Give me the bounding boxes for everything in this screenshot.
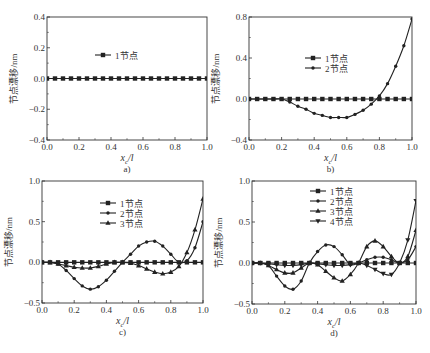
- series-line: [42, 222, 203, 290]
- legend-label: 2节点: [330, 197, 353, 207]
- square-marker: [258, 261, 262, 265]
- square-marker: [189, 76, 193, 80]
- square-marker: [255, 97, 259, 101]
- square-marker: [104, 260, 108, 264]
- y-tick-label: −0.4: [231, 135, 248, 145]
- dot-marker: [161, 244, 164, 247]
- plot-frame: [249, 17, 412, 140]
- square-marker: [385, 97, 389, 101]
- square-marker: [340, 261, 344, 265]
- triangle-down-marker: [413, 199, 418, 204]
- square-marker: [283, 261, 287, 265]
- square-marker: [56, 260, 60, 264]
- square-marker: [153, 260, 157, 264]
- dot-marker: [382, 256, 385, 259]
- legend-label: 3节点: [330, 207, 353, 217]
- square-marker: [279, 97, 283, 101]
- square-marker: [299, 261, 303, 265]
- y-axis-label: 节点漂移/nm: [8, 53, 19, 103]
- x-tick-label: 0.2: [73, 142, 84, 152]
- triangle-up-marker: [200, 196, 205, 201]
- y-tick-label: −0.2: [29, 104, 45, 114]
- x-tick-label: 0.2: [276, 142, 287, 152]
- square-marker: [394, 97, 398, 101]
- square-marker: [414, 261, 418, 265]
- square-marker: [320, 97, 324, 101]
- dot-marker: [291, 288, 294, 291]
- y-tick-label: 0.0: [34, 74, 46, 84]
- chart-panel-a: 0.00.20.40.60.81.0−0.4−0.20.00.20.4节点漂移/…: [8, 12, 213, 174]
- square-marker: [109, 76, 113, 80]
- legend-label: 1节点: [115, 51, 138, 61]
- square-marker: [307, 261, 311, 265]
- square-marker: [312, 97, 316, 101]
- triangle-up-marker: [413, 227, 418, 232]
- square-marker: [365, 261, 369, 265]
- dot-marker: [300, 279, 303, 282]
- chart-panel-c: 0.00.20.40.60.81.0−0.50.00.51.0节点漂移/nmxc…: [3, 176, 209, 337]
- square-marker: [250, 261, 254, 265]
- legend-label: 1节点: [120, 199, 143, 209]
- chart-panel-d: 0.00.20.40.60.81.0−0.50.00.51.0节点漂移/nmxc…: [213, 176, 422, 338]
- square-marker: [80, 260, 84, 264]
- legend-label: 1节点: [325, 54, 348, 64]
- square-marker: [311, 56, 315, 60]
- square-marker: [133, 76, 137, 80]
- dot-marker: [370, 102, 373, 105]
- square-marker: [85, 76, 89, 80]
- square-marker: [93, 76, 97, 80]
- x-tick-label: 0.6: [133, 305, 145, 315]
- square-marker: [377, 97, 381, 101]
- square-marker: [274, 261, 278, 265]
- x-tick-label: 0.6: [341, 142, 353, 152]
- x-tick-label: 0.4: [312, 306, 324, 316]
- square-marker: [181, 76, 185, 80]
- square-marker: [53, 76, 57, 80]
- dot-marker: [394, 65, 397, 68]
- square-marker: [88, 260, 92, 264]
- square-marker: [336, 97, 340, 101]
- square-marker: [324, 261, 328, 265]
- y-tick-label: 0.5: [239, 217, 251, 227]
- square-marker: [96, 260, 100, 264]
- x-tick-label: 0.2: [279, 306, 290, 316]
- dot-marker: [324, 243, 327, 246]
- square-marker: [381, 261, 385, 265]
- square-marker: [288, 97, 292, 101]
- dot-marker: [129, 253, 132, 256]
- y-tick-label: 0.0: [29, 257, 41, 267]
- square-marker: [328, 97, 332, 101]
- chart-panel-b: 0.00.20.40.60.81.0−0.40.00.40.8节点漂移/nmxc…: [210, 12, 418, 174]
- square-marker: [136, 260, 140, 264]
- x-tick-label: 0.8: [374, 142, 386, 152]
- dot-marker: [169, 253, 172, 256]
- panel-subtitle: c): [119, 327, 126, 337]
- x-tick-label: 1.0: [201, 142, 213, 152]
- square-marker: [345, 97, 349, 101]
- y-tick-label: 1.0: [239, 176, 251, 186]
- square-marker: [193, 260, 197, 264]
- square-marker: [205, 76, 209, 80]
- square-marker: [117, 76, 121, 80]
- legend-label: 1节点: [330, 187, 353, 197]
- square-marker: [161, 260, 165, 264]
- square-marker: [316, 189, 320, 193]
- square-marker: [291, 261, 295, 265]
- legend: 1节点: [95, 51, 138, 61]
- square-marker: [45, 76, 49, 80]
- triangle-up-marker: [299, 265, 304, 270]
- dot-marker: [296, 104, 299, 107]
- dot-marker: [316, 199, 319, 202]
- x-tick-label: 0.8: [169, 142, 181, 152]
- x-tick-label: 0.4: [105, 142, 117, 152]
- dot-marker: [414, 245, 417, 248]
- series-square: [45, 76, 209, 80]
- square-marker: [185, 260, 189, 264]
- dot-marker: [89, 287, 92, 290]
- panel-subtitle: a): [124, 164, 131, 174]
- dot-marker: [97, 285, 100, 288]
- square-marker: [296, 97, 300, 101]
- square-marker: [165, 76, 169, 80]
- dot-marker: [386, 82, 389, 85]
- dot-marker: [73, 277, 76, 280]
